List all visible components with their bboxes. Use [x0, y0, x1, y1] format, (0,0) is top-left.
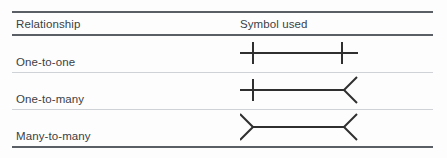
relationship-symbols-figure: Relationship Symbol used One-to-one One-… [0, 0, 447, 158]
one-to-one-symbol [240, 38, 370, 68]
table-row: One-to-many [12, 73, 433, 109]
table-bottom-rule [12, 146, 433, 148]
many-to-many-symbol [240, 111, 370, 143]
table-row: Many-to-many [12, 110, 433, 146]
row-label-one-to-many: One-to-many [12, 93, 232, 109]
row-symbol-cell [232, 110, 433, 146]
one-to-many-symbol [240, 74, 370, 106]
row-label-one-to-one: One-to-one [12, 56, 232, 72]
row-label-many-to-many: Many-to-many [12, 130, 232, 146]
table-row: One-to-one [12, 36, 433, 72]
row-symbol-cell [232, 36, 433, 72]
column-header-relationship: Relationship [12, 18, 232, 34]
table-header-row: Relationship Symbol used [12, 13, 433, 34]
row-symbol-cell [232, 73, 433, 109]
column-header-symbol-used: Symbol used [232, 13, 433, 34]
relationship-symbols-table: Relationship Symbol used One-to-one One-… [12, 11, 433, 148]
